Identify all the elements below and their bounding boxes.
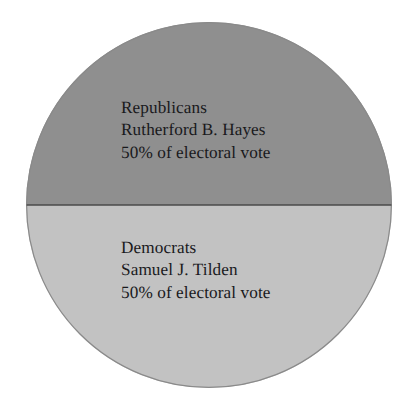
pie-chart-graphic [26, 22, 392, 388]
slice-candidate-republicans: Rutherford B. Hayes [121, 119, 271, 141]
slice-label-democrats: Democrats Samuel J. Tilden 50% of electo… [121, 237, 271, 304]
slice-share-republicans: 50% of electoral vote [121, 142, 271, 164]
slice-candidate-democrats: Samuel J. Tilden [121, 259, 271, 281]
slice-share-democrats: 50% of electoral vote [121, 282, 271, 304]
slice-label-republicans: Republicans Rutherford B. Hayes 50% of e… [121, 97, 271, 164]
slice-party-republicans: Republicans [121, 97, 271, 119]
pie-chart-figure: Republicans Rutherford B. Hayes 50% of e… [0, 0, 418, 403]
pie-svg [26, 22, 392, 388]
slice-party-democrats: Democrats [121, 237, 271, 259]
